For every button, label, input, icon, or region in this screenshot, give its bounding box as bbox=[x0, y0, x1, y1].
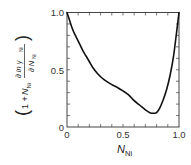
svg-text:N: N bbox=[117, 143, 125, 155]
minor-ticks bbox=[67, 13, 179, 128]
y-tick-label-1: 1.0 bbox=[51, 7, 64, 18]
svg-text:Ni: Ni bbox=[26, 83, 32, 89]
svg-text:Ni: Ni bbox=[18, 47, 24, 52]
plot-frame bbox=[67, 13, 179, 128]
svg-text:(: ( bbox=[12, 110, 32, 116]
x-tick-label-0: 0 bbox=[64, 129, 69, 140]
data-curve bbox=[67, 13, 179, 114]
svg-text:Ni: Ni bbox=[125, 149, 132, 158]
svg-text:∂ ln γ: ∂ ln γ bbox=[14, 59, 23, 78]
y-axis-label: ( 1 + N Ni ∂ ln γ Ni ∂ N Ni ) bbox=[12, 35, 37, 116]
svg-text:1 +: 1 + bbox=[20, 96, 30, 109]
x-tick-label-05: 0.5 bbox=[116, 129, 129, 140]
y-tick-label-05: 0.5 bbox=[51, 65, 64, 76]
x-axis-label: N Ni bbox=[117, 143, 132, 158]
chart: 1.0 0.5 0 0 0.5 1.0 N Ni ( 1 + N Ni ∂ ln… bbox=[0, 0, 191, 165]
svg-text:): ) bbox=[12, 35, 32, 41]
svg-text:Ni: Ni bbox=[31, 54, 37, 59]
y-tick-label-0: 0 bbox=[59, 122, 64, 133]
x-tick-label-1: 1.0 bbox=[172, 129, 185, 140]
svg-text:∂ N: ∂ N bbox=[27, 60, 36, 72]
